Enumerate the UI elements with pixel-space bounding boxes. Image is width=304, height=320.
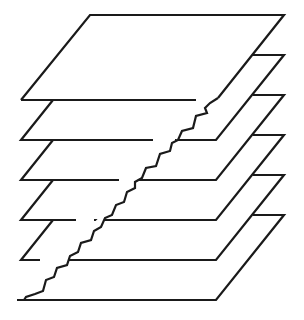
layer-stack-diagram (0, 0, 304, 320)
layer-stack-svg (0, 0, 304, 320)
